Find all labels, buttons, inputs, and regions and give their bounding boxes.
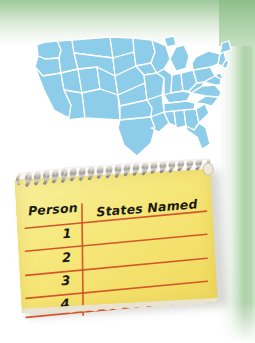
table-row: 2	[61, 250, 71, 265]
frame-bottom-fade	[219, 303, 255, 343]
united-states-map	[26, 30, 231, 170]
table-header-states-named: States Named	[96, 196, 198, 219]
illustration-canvas: Person States Named 1 2 3 4	[0, 0, 255, 343]
spiral-notepad: Person States Named 1 2 3 4	[14, 160, 227, 319]
table-row: 3	[61, 273, 71, 288]
table-header-person: Person	[28, 200, 79, 219]
table-row: 4	[60, 296, 70, 311]
table-row: 1	[62, 226, 72, 241]
